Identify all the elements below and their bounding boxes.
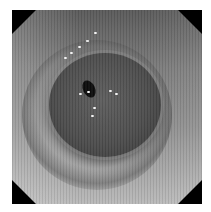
frame-corner — [12, 10, 36, 34]
endoscopy-image — [12, 10, 202, 204]
frame-corner — [12, 180, 36, 204]
frame-corner — [178, 10, 202, 34]
frame-corner — [178, 180, 202, 204]
scanline-texture — [12, 10, 202, 204]
